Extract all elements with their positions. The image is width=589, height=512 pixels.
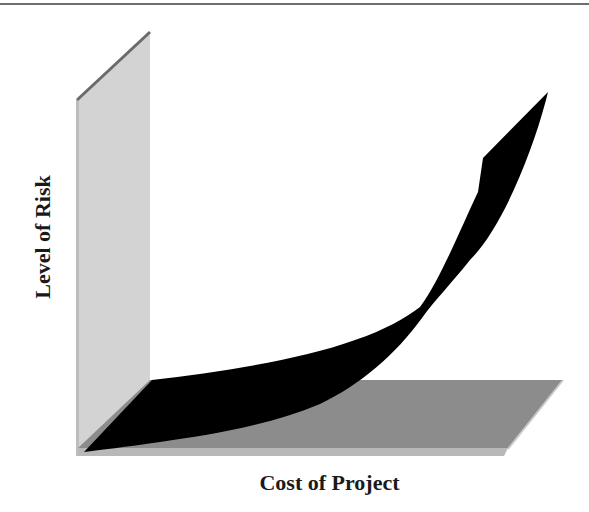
y-axis-label: Level of Risk bbox=[30, 175, 56, 298]
x-axis-label: Cost of Project bbox=[0, 470, 589, 496]
risk-cost-diagram bbox=[0, 0, 589, 512]
